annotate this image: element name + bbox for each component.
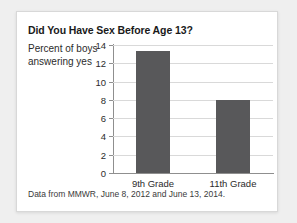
y-axis-tick-label: 14 [95,40,106,51]
y-axis-tick-mark [109,155,113,156]
chart-title: Did You Have Sex Before Age 13? [28,24,193,36]
y-axis-tick-label: 6 [101,113,106,124]
y-axis-tick-label: 2 [101,149,106,160]
y-axis-tick-label: 4 [101,131,106,142]
page-background: Did You Have Sex Before Age 13? Percent … [0,0,297,223]
y-axis-tick-mark [109,45,113,46]
bar [216,100,250,173]
plot-area: 02468101214 9th Grade11th Grade [113,45,273,173]
y-axis-tick-mark [109,82,113,83]
x-axis-category-label: 11th Grade [210,178,257,189]
x-axis-category-label: 9th Grade [132,178,174,189]
x-axis-line [113,173,274,174]
y-axis-tick-label: 10 [95,76,106,87]
gridline [113,45,273,46]
chart-card: Did You Have Sex Before Age 13? Percent … [16,11,278,212]
y-axis-tick-label: 12 [95,58,106,69]
y-axis-tick-mark [109,118,113,119]
y-axis-tick-label: 0 [101,168,106,179]
y-axis-tick-label: 8 [101,94,106,105]
y-axis-tick-mark [109,63,113,64]
source-note: Data from MMWR, June 8, 2012 and June 13… [28,189,225,199]
y-axis-tick-mark [109,173,113,174]
y-axis-tick-mark [109,136,113,137]
y-axis-tick-mark [109,100,113,101]
bar [136,51,170,173]
